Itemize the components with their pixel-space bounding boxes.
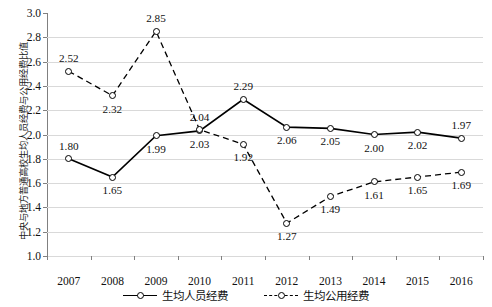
legend-label: 生均公用经费 — [303, 287, 369, 303]
x-axis-tick — [396, 256, 397, 260]
y-axis-tick-label: 1.8 — [27, 153, 41, 165]
y-axis-tick-label: 1.4 — [27, 201, 41, 213]
legend-circle-icon — [278, 292, 285, 299]
x-axis-tick — [309, 256, 310, 260]
data-point-marker — [153, 28, 160, 35]
data-point-label: 2.05 — [321, 135, 341, 147]
data-point-marker — [109, 92, 116, 99]
data-point-marker — [283, 124, 290, 131]
x-axis-tick — [47, 256, 48, 260]
data-point-label: 2.52 — [59, 52, 79, 64]
chart-legend: 生均人员经费生均公用经费 — [0, 286, 492, 304]
data-point-marker — [240, 96, 247, 103]
data-point-label: 2.06 — [277, 134, 297, 146]
y-axis-tick-label: 1.6 — [27, 177, 41, 189]
data-point-marker — [327, 125, 334, 132]
legend-label: 生均人员经费 — [162, 287, 228, 303]
legend-item-1[interactable]: 生均人员经费 — [123, 287, 228, 303]
data-point-marker — [371, 131, 378, 138]
y-axis-tick-label: 2.4 — [27, 80, 41, 92]
legend-item-2[interactable]: 生均公用经费 — [264, 287, 369, 303]
data-point-label: 1.69 — [451, 179, 471, 191]
legend-circle-icon — [137, 292, 144, 299]
x-axis-tick — [439, 256, 440, 260]
x-axis-tick — [221, 256, 222, 260]
x-axis-tick — [178, 256, 179, 260]
data-point-marker — [458, 169, 465, 176]
data-point-label: 1.92 — [233, 151, 253, 163]
series-line-1 — [69, 99, 461, 177]
data-point-label: 1.49 — [321, 203, 341, 215]
y-axis-tick-label: 2.0 — [27, 129, 41, 141]
x-axis-tick — [352, 256, 353, 260]
y-axis-tick-label: 3.0 — [27, 7, 41, 19]
data-point-marker — [414, 174, 421, 181]
data-point-label: 1.80 — [59, 140, 79, 152]
legend-marker-icon — [123, 291, 157, 300]
data-point-label: 1.61 — [364, 189, 384, 201]
legend-marker-icon — [264, 291, 298, 300]
x-axis-tick — [91, 256, 92, 260]
data-point-marker — [327, 193, 334, 200]
y-axis-tick-label: 2.8 — [27, 31, 41, 43]
y-axis-tick-label: 1.0 — [27, 250, 41, 262]
data-point-label: 1.65 — [103, 184, 123, 196]
data-point-label: 2.29 — [233, 80, 253, 92]
x-axis-tick — [265, 256, 266, 260]
data-point-marker — [153, 132, 160, 139]
data-point-marker — [283, 220, 290, 227]
data-point-marker — [240, 141, 247, 148]
plot-area: 3.02.82.62.42.22.01.81.61.41.21.0 1.801.… — [47, 13, 483, 256]
data-point-label: 2.02 — [408, 139, 428, 151]
x-axis-tick — [483, 256, 484, 260]
y-axis-tick-label: 2.2 — [27, 104, 41, 116]
data-point-label: 2.04 — [190, 111, 210, 123]
x-axis-tick — [134, 256, 135, 260]
data-point-label: 2.03 — [190, 138, 210, 150]
data-point-marker — [109, 174, 116, 181]
data-point-marker — [414, 129, 421, 136]
data-point-label: 1.65 — [408, 184, 428, 196]
series-line-2 — [69, 31, 461, 223]
line-chart: 中央与地方普通高校生均人员经费与公用经费比值 3.02.82.62.42.22.… — [0, 0, 492, 307]
data-point-label: 2.32 — [103, 103, 123, 115]
data-point-marker — [458, 135, 465, 142]
data-point-label: 1.27 — [277, 230, 297, 242]
data-point-label: 1.97 — [451, 119, 471, 131]
y-axis-tick-label: 2.6 — [27, 56, 41, 68]
data-point-label: 2.00 — [364, 142, 384, 154]
y-axis-tick-label: 1.2 — [27, 226, 41, 238]
data-point-label: 2.85 — [146, 12, 166, 24]
data-point-marker — [371, 178, 378, 185]
data-point-label: 1.99 — [146, 143, 166, 155]
